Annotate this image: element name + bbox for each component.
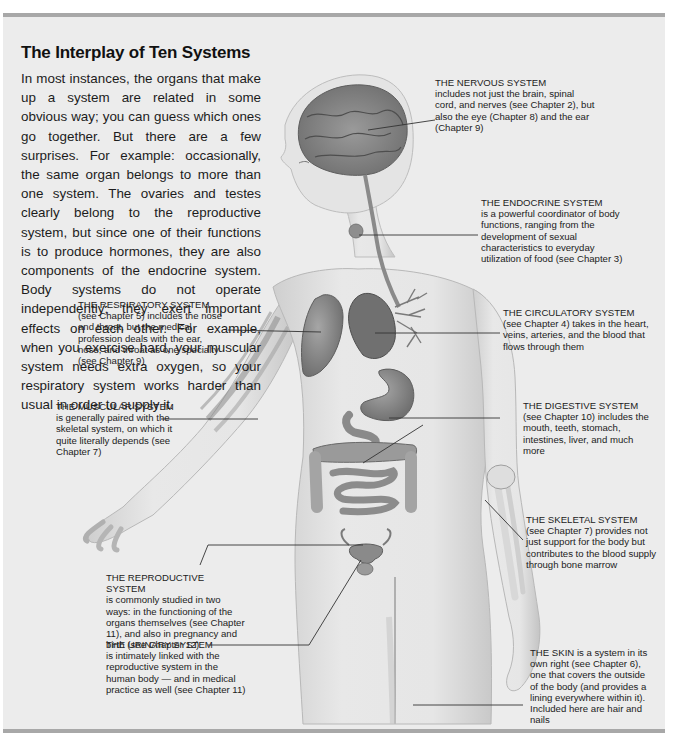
label-body: (see Chapter 10) includes the mouth, tee… bbox=[523, 411, 649, 456]
label-endocrine-system: THE ENDOCRINE SYSTEM is a powerful coord… bbox=[481, 197, 631, 264]
label-heading: THE MUSCULAR SYSTEM bbox=[56, 401, 186, 412]
label-heading: THE CIRCULATORY SYSTEM bbox=[503, 307, 665, 318]
label-heading: THE ENDOCRINE SYSTEM bbox=[481, 197, 631, 208]
label-urinary-system: THE URINARY SYSTEM is intimately linked … bbox=[106, 639, 246, 695]
label-digestive-system: THE DIGESTIVE SYSTEM (see Chapter 10) in… bbox=[523, 400, 653, 456]
article-title: The Interplay of Ten Systems bbox=[21, 43, 250, 63]
article-panel: The Interplay of Ten Systems In most ins… bbox=[3, 13, 665, 733]
label-skin-system: THE SKIN is a system in its own right (s… bbox=[530, 647, 655, 725]
label-body: (see Chapter 4) takes in the heart, vein… bbox=[503, 318, 649, 351]
label-body: is a powerful coordinator of body functi… bbox=[481, 208, 622, 264]
label-nervous-system: THE NERVOUS SYSTEM includes not just the… bbox=[435, 77, 595, 133]
label-body: (see Chapter 5) includes the nose and th… bbox=[78, 310, 222, 366]
label-heading: THE RESPIRATORY SYSTEM bbox=[78, 299, 228, 310]
label-muscular-system: THE MUSCULAR SYSTEM is generally paired … bbox=[56, 401, 186, 457]
label-respiratory-system: THE RESPIRATORY SYSTEM (see Chapter 5) i… bbox=[78, 299, 228, 366]
label-skeletal-system: THE SKELETAL SYSTEM (see Chapter 7) prov… bbox=[526, 514, 661, 570]
label-heading: THE URINARY SYSTEM bbox=[106, 639, 246, 650]
label-body: includes not just the brain, spinal cord… bbox=[435, 88, 594, 133]
label-heading: THE SKIN is a system in its own right (s… bbox=[530, 647, 647, 725]
label-body: is generally paired with the skeletal sy… bbox=[56, 412, 172, 457]
label-body: (see Chapter 7) provides not just suppor… bbox=[526, 525, 656, 570]
label-circulatory-system: THE CIRCULATORY SYSTEM (see Chapter 4) t… bbox=[503, 307, 665, 352]
label-heading: THE SKELETAL SYSTEM bbox=[526, 514, 661, 525]
label-heading: THE NERVOUS SYSTEM bbox=[435, 77, 595, 88]
label-heading: THE REPRODUCTIVE SYSTEM bbox=[106, 572, 246, 594]
label-body: is intimately linked with the reproducti… bbox=[106, 650, 246, 695]
label-heading: THE DIGESTIVE SYSTEM bbox=[523, 400, 653, 411]
